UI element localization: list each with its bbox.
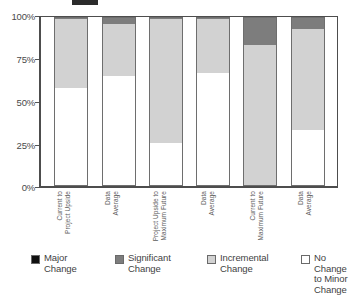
x-axis-label-0-line-1: Project Upside bbox=[64, 191, 72, 255]
bar-2-segment-incremental-change bbox=[150, 18, 182, 143]
bar-3[interactable] bbox=[196, 17, 230, 186]
legend-swatch-significant-change bbox=[115, 255, 124, 264]
bar-4-segment-incremental-change bbox=[244, 45, 276, 185]
legend-item-incremental-change: Incremental Change bbox=[207, 253, 269, 274]
bar-4[interactable] bbox=[243, 17, 277, 186]
bar-2[interactable] bbox=[149, 17, 183, 186]
x-axis-label-4-line-0: Current to bbox=[249, 191, 257, 255]
bar-5[interactable] bbox=[291, 17, 325, 186]
y-tick-label-75: 75% bbox=[3, 54, 35, 65]
bar-5-segment-incremental-change bbox=[292, 28, 324, 130]
bar-1-segment-no-change-to-minor-change bbox=[103, 76, 135, 185]
x-axis-label-4-line-1: Maximum Future bbox=[257, 191, 265, 255]
x-axis-label-1-line-0: Data bbox=[104, 191, 112, 255]
x-axis-label-2-line-0: Project Upside to bbox=[152, 191, 160, 255]
x-axis-label-2-line-1: Maximum Future bbox=[160, 191, 168, 255]
x-axis-label-3-line-1: Average bbox=[208, 191, 216, 255]
bar-5-segment-no-change-to-minor-change bbox=[292, 130, 324, 185]
bar-5-segment-significant-change bbox=[292, 18, 324, 28]
x-axis-label-3-line-0: Data bbox=[200, 191, 208, 255]
x-axis-label-5-line-0: Data bbox=[297, 191, 305, 255]
bar-0-segment-no-change-to-minor-change bbox=[55, 88, 87, 185]
legend-label-significant-change: Significant Change bbox=[128, 253, 171, 274]
bar-4-segment-significant-change bbox=[244, 18, 276, 45]
y-tick-label-0: 0% bbox=[3, 182, 35, 193]
y-tick-label-25: 25% bbox=[3, 140, 35, 151]
legend-item-no-change: No Change to Minor Change bbox=[301, 253, 351, 295]
x-axis-label-0-line-0: Current to bbox=[56, 191, 64, 255]
bar-1[interactable] bbox=[102, 17, 136, 186]
bar-0-segment-incremental-change bbox=[55, 18, 87, 88]
plot-area bbox=[39, 16, 338, 188]
x-axis-label-5: Data Average bbox=[297, 191, 353, 255]
legend-swatch-no-change bbox=[301, 255, 310, 264]
bar-3-segment-incremental-change bbox=[197, 18, 229, 73]
x-axis-label-5-line-1: Average bbox=[305, 191, 313, 255]
y-tick-label-100: 100% bbox=[3, 11, 35, 22]
bar-1-segment-significant-change bbox=[103, 18, 135, 23]
stacked-bar-chart: 100% 75% 50% 25% 0% Current to Project U… bbox=[0, 0, 353, 298]
legend-item-significant-change: Significant Change bbox=[115, 253, 171, 274]
cropped-title-fragment bbox=[72, 0, 98, 5]
legend-label-no-change: No Change to Minor Change bbox=[314, 253, 351, 295]
bar-0[interactable] bbox=[54, 17, 88, 186]
legend-swatch-incremental-change bbox=[207, 255, 216, 264]
bar-2-segment-no-change-to-minor-change bbox=[150, 143, 182, 185]
bar-1-segment-incremental-change bbox=[103, 23, 135, 76]
legend-item-major-change: Major Change bbox=[31, 253, 77, 274]
y-axis: 100% 75% 50% 25% 0% bbox=[0, 0, 35, 298]
x-axis-label-1-line-1: Average bbox=[112, 191, 120, 255]
legend-swatch-major-change bbox=[31, 255, 40, 264]
legend-label-major-change: Major Change bbox=[44, 253, 77, 274]
chart-legend: Major Change Significant Change Incremen… bbox=[31, 253, 351, 298]
legend-label-incremental-change: Incremental Change bbox=[220, 253, 269, 274]
bars-container bbox=[41, 17, 337, 186]
y-tick-label-50: 50% bbox=[3, 97, 35, 108]
bar-3-segment-no-change-to-minor-change bbox=[197, 73, 229, 185]
